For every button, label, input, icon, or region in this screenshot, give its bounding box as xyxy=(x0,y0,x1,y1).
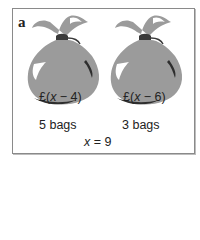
bag-count-left: 5 bags xyxy=(39,118,77,132)
bag-expression-right: £(x − 6) xyxy=(123,90,166,104)
equation: x = 9 xyxy=(84,135,111,149)
bag-expression-left: £(x − 4) xyxy=(39,90,82,104)
bag-count-right: 3 bags xyxy=(122,118,160,132)
